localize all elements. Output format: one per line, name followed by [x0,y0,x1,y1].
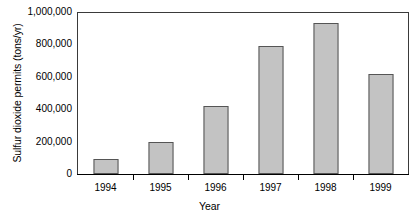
bar-band [243,13,298,174]
x-axis-tick-mark [188,175,189,180]
x-axis-tick-label: 1995 [133,182,188,193]
y-axis-tick-label: 800,000 [10,39,72,49]
bar[interactable] [258,46,283,174]
bar[interactable] [93,159,118,174]
bar-chart-figure: Sulfur dioxide permits (tons/yr) 0200,00… [0,0,419,217]
y-axis-tick-label: 0 [10,169,72,179]
bar[interactable] [368,74,393,174]
x-axis-tick-label: 1999 [353,182,408,193]
bar[interactable] [313,23,338,174]
x-axis-tick-label: 1994 [78,182,133,193]
y-axis-tick-label: 1,000,000 [10,7,72,17]
x-axis-tick-mark [243,175,244,180]
y-axis-tick-label: 200,000 [10,137,72,147]
x-axis-tick-label: 1996 [188,182,243,193]
bar-band [298,13,353,174]
x-axis-title: Year [0,200,419,212]
x-axis-tick-mark [133,175,134,180]
bar[interactable] [203,106,228,174]
x-axis-tick-label: 1997 [243,182,298,193]
y-axis-tick-label: 400,000 [10,104,72,114]
y-axis-tick-label: 600,000 [10,72,72,82]
bar-band [353,13,408,174]
x-axis-tick-mark [353,175,354,180]
bar[interactable] [148,142,173,174]
y-axis-tick-labels: 0200,000400,000600,000800,0001,000,000 [10,0,72,217]
bars-layer [78,13,408,174]
bar-band [188,13,243,174]
bar-band [133,13,188,174]
x-axis-tick-label: 1998 [298,182,353,193]
x-axis-tick-mark [298,175,299,180]
bar-band [78,13,133,174]
